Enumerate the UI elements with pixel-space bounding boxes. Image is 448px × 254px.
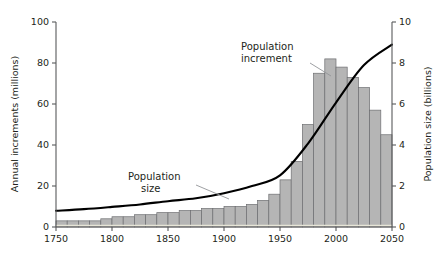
right-axis-title: Population size (billions) [422, 66, 433, 181]
left-axis: 020406080100 Annual increments (millions… [9, 16, 56, 232]
annotation-population-increment: Population increment [241, 41, 331, 76]
bar [347, 77, 358, 227]
right-axis-ticks: 0246810 [392, 16, 411, 232]
bar [258, 200, 269, 227]
bar [291, 161, 302, 227]
x-axis-ticks: 1750180018501900195020002050 [44, 227, 404, 244]
left-axis-title: Annual increments (millions) [9, 56, 20, 192]
bar [179, 211, 190, 227]
bar [235, 207, 246, 228]
annotation-increment-line1: Population [241, 41, 294, 52]
right-tick-label: 8 [399, 57, 405, 68]
bar [190, 211, 201, 227]
population-chart: 020406080100 Annual increments (millions… [0, 0, 448, 254]
bar [325, 59, 336, 227]
bar [224, 207, 235, 228]
left-tick-label: 20 [37, 180, 49, 191]
annotation-size-line1: Population [128, 171, 181, 182]
right-tick-label: 2 [399, 180, 405, 191]
annotation-size-line2: size [141, 183, 160, 194]
right-tick-label: 0 [399, 221, 405, 232]
bar [280, 180, 291, 227]
right-tick-label: 4 [399, 139, 405, 150]
left-axis-ticks: 020406080100 [31, 16, 56, 232]
bar [202, 209, 213, 227]
chart-canvas: 020406080100 Annual increments (millions… [0, 0, 448, 254]
bar [370, 110, 381, 227]
bar [336, 67, 347, 227]
x-tick-label: 2000 [324, 233, 348, 244]
right-axis: 0246810 Population size (billions) [392, 16, 433, 232]
left-tick-label: 80 [37, 57, 49, 68]
bar [358, 88, 369, 227]
left-tick-label: 60 [37, 98, 49, 109]
x-tick-label: 1750 [44, 233, 68, 244]
bar [314, 73, 325, 227]
bar [246, 204, 257, 227]
x-axis: 1750180018501900195020002050 [44, 227, 404, 244]
left-tick-label: 0 [43, 221, 49, 232]
annotation-increment-line2: increment [241, 53, 292, 64]
bar-series-population-increment [56, 59, 392, 227]
x-tick-label: 1850 [156, 233, 180, 244]
right-tick-label: 6 [399, 98, 405, 109]
left-tick-label: 40 [37, 139, 49, 150]
x-tick-label: 2050 [380, 233, 404, 244]
bar [213, 209, 224, 227]
bar [381, 135, 392, 227]
left-tick-label: 100 [31, 16, 49, 27]
x-tick-label: 1800 [100, 233, 124, 244]
bar [269, 194, 280, 227]
right-tick-label: 10 [399, 16, 411, 27]
x-tick-label: 1950 [268, 233, 292, 244]
x-tick-label: 1900 [212, 233, 236, 244]
